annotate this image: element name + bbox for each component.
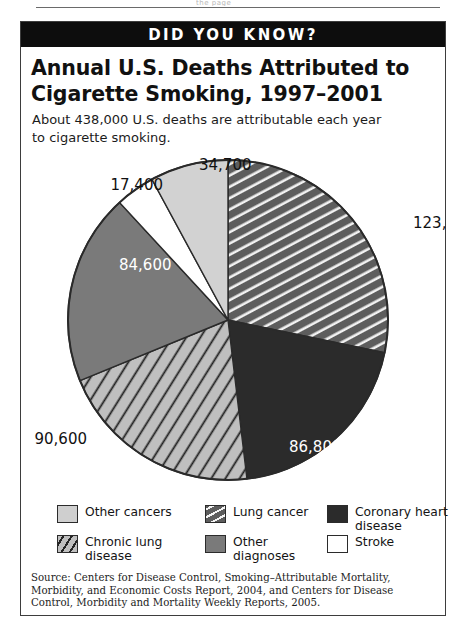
pie-label-other-diagnoses: 84,600 [119, 256, 172, 274]
legend-item-lung-cancer[interactable]: Lung cancer [205, 504, 327, 523]
legend-item-other-diagnoses[interactable]: Other diagnoses [205, 534, 327, 563]
did-you-know-banner: DID YOU KNOW? [21, 22, 445, 47]
banner-label: DID YOU KNOW? [148, 26, 318, 44]
pie-label-other-cancers: 34,700 [199, 156, 252, 174]
legend-item-coronary-heart-disease[interactable]: Coronary heart disease [327, 504, 449, 533]
legend-swatch-other-cancers-icon [57, 505, 78, 523]
legend-label-lung-cancer: Lung cancer [233, 504, 308, 519]
page-top-cutoff-text: the page [196, 0, 256, 6]
legend-label-stroke: Stroke [355, 534, 394, 549]
pie-label-chronic-lung-disease: 90,600 [35, 430, 88, 448]
legend-item-stroke[interactable]: Stroke [327, 534, 449, 553]
pie-label-stroke: 17,400 [111, 176, 164, 194]
page-top-rule [36, 7, 440, 8]
page-title: Annual U.S. Deaths Attributed to Cigaret… [31, 55, 437, 107]
legend-item-chronic-lung-disease[interactable]: Chronic lung disease [57, 534, 205, 563]
legend-label-coronary-heart-disease: Coronary heart disease [355, 504, 449, 533]
pie-slices [68, 160, 388, 480]
pie-chart: 123,80086,80090,60084,60017,40034,700 [21, 152, 447, 492]
legend-swatch-lung-cancer-icon [205, 505, 226, 523]
legend-swatch-other-diagnoses-icon [205, 535, 226, 553]
legend-label-other-diagnoses: Other diagnoses [233, 534, 327, 563]
pie-slice-lung-cancer[interactable] [228, 160, 388, 353]
source-note: Source: Centers for Disease Control, Smo… [31, 572, 435, 610]
pie-label-lung-cancer: 123,800 [413, 214, 447, 232]
legend-item-other-cancers[interactable]: Other cancers [57, 504, 205, 523]
page-subtitle: About 438,000 U.S. deaths are attributab… [32, 111, 392, 146]
pie-label-coronary-heart-disease: 86,800 [289, 438, 342, 456]
feature-box: DID YOU KNOW? Annual U.S. Deaths Attribu… [20, 21, 446, 616]
legend-swatch-coronary-heart-disease-icon [327, 505, 348, 523]
legend-swatch-stroke-icon [327, 535, 348, 553]
legend-label-other-cancers: Other cancers [85, 504, 172, 519]
legend-label-chronic-lung-disease: Chronic lung disease [85, 534, 205, 563]
chart-legend: Other cancers Lung cancer Coronary heart… [57, 504, 437, 561]
pie-chart-svg: 123,80086,80090,60084,60017,40034,700 [21, 152, 447, 492]
page-root: the page DID YOU KNOW? Annual U.S. Death… [0, 0, 468, 638]
legend-swatch-chronic-lung-disease-icon [57, 535, 78, 553]
